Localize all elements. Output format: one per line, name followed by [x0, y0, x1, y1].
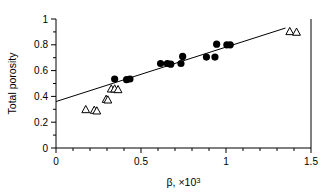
data-point-circle — [213, 41, 220, 48]
data-layer — [56, 27, 300, 114]
label-layer: 00.20.40.60.8100.511.5Total porosityβ, ×… — [6, 14, 318, 189]
data-point-circle — [126, 75, 133, 82]
data-point-circle — [203, 53, 210, 60]
data-point-circle — [179, 53, 186, 60]
x-tick-label: 0 — [53, 156, 59, 167]
axes-layer — [51, 19, 311, 153]
y-tick-label: 0.8 — [34, 39, 48, 50]
data-point-triangle — [286, 27, 294, 34]
data-point-circle — [157, 60, 164, 67]
scatter-plot-figure: 00.20.40.60.8100.511.5Total porosityβ, ×… — [0, 0, 330, 192]
data-point-circle — [211, 53, 218, 60]
data-point-circle — [111, 75, 118, 82]
y-tick-label: 0.6 — [34, 65, 48, 76]
y-tick-label: 1 — [42, 14, 48, 25]
y-tick-label: 0.4 — [34, 91, 48, 102]
data-point-triangle — [82, 105, 90, 112]
data-point-triangle — [293, 28, 301, 35]
data-point-circle — [177, 60, 184, 67]
y-tick-label: 0.2 — [34, 117, 48, 128]
x-tick-label: 1.5 — [304, 156, 318, 167]
x-axis-title: β, ×103 — [167, 176, 201, 189]
plot-canvas: 00.20.40.60.8100.511.5Total porosityβ, ×… — [0, 0, 330, 192]
y-axis-title: Total porosity — [6, 52, 18, 115]
y-tick-label: 0 — [42, 143, 48, 154]
x-tick-label: 1 — [223, 156, 229, 167]
data-point-circle — [227, 41, 234, 48]
x-tick-label: 0.5 — [134, 156, 148, 167]
data-point-circle — [167, 61, 174, 68]
